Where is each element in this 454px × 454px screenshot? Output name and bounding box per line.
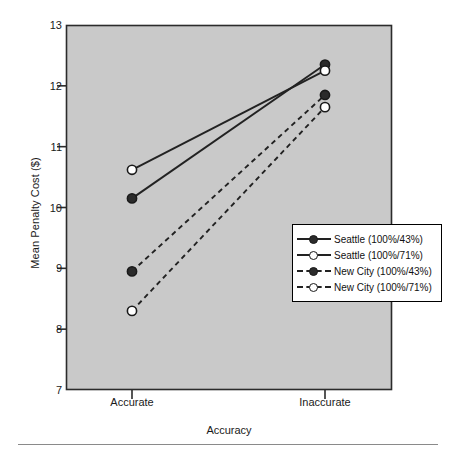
- data-point-marker: [127, 165, 136, 174]
- y-axis-tick-label: 9: [28, 262, 62, 274]
- y-axis-tick-label: 13: [28, 19, 62, 31]
- legend-item: Seattle (100%/71%): [297, 247, 436, 263]
- data-point-marker: [127, 306, 136, 315]
- legend-marker-icon: [297, 232, 331, 246]
- x-axis-tick-label: Accurate: [110, 396, 153, 408]
- legend-marker-icon: [297, 280, 331, 294]
- chart-legend: Seattle (100%/43%)Seattle (100%/71%)New …: [292, 224, 442, 302]
- x-axis-title: Accuracy: [66, 424, 392, 436]
- legend-label: New City (100%/43%): [331, 266, 432, 277]
- x-axis-tick-label: Inaccurate: [299, 396, 350, 408]
- chart-figure: Mean Penalty Cost ($) 78910111213 Accura…: [0, 0, 454, 454]
- y-axis-tick-label: 7: [28, 384, 62, 396]
- y-axis-tick-labels: 78910111213: [22, 0, 62, 454]
- data-point-marker: [320, 103, 329, 112]
- legend-item: Seattle (100%/43%): [297, 231, 436, 247]
- legend-marker-icon: [297, 248, 331, 262]
- legend-label: New City (100%/71%): [331, 282, 432, 293]
- y-axis-tick-label: 11: [28, 141, 62, 153]
- legend-dot-icon: [309, 235, 318, 244]
- data-point-marker: [127, 267, 136, 276]
- legend-marker-icon: [297, 264, 331, 278]
- plot-background: [66, 25, 392, 390]
- data-point-marker: [127, 194, 136, 203]
- data-point-marker: [320, 66, 329, 75]
- data-point-marker: [320, 90, 329, 99]
- y-axis-tick-label: 8: [28, 323, 62, 335]
- legend-dot-icon: [309, 283, 318, 292]
- footer-divider: [18, 444, 438, 445]
- legend-item: New City (100%/43%): [297, 263, 436, 279]
- y-axis-tick-label: 12: [28, 80, 62, 92]
- legend-label: Seattle (100%/71%): [331, 250, 423, 261]
- legend-item: New City (100%/71%): [297, 279, 436, 295]
- legend-dot-icon: [309, 251, 318, 260]
- legend-label: Seattle (100%/43%): [331, 234, 423, 245]
- y-axis-tick-label: 10: [28, 202, 62, 214]
- legend-dot-icon: [309, 267, 318, 276]
